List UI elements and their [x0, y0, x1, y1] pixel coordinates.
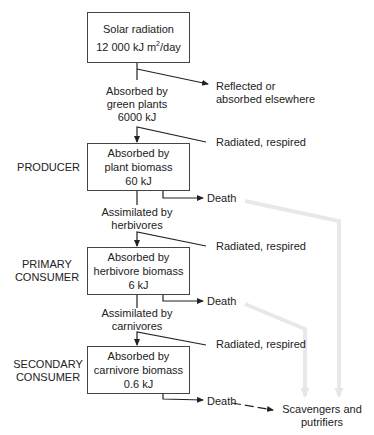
- loss-death-producer: Death: [207, 192, 236, 205]
- solar-value: 12 000 kJ m2/day: [96, 40, 181, 54]
- flow-green-plants: Absorbed by green plants 6000 kJ: [97, 85, 177, 124]
- level-secondary-consumer: SECONDARY CONSUMER: [10, 358, 86, 384]
- secondary-value: 0.6 kJ: [124, 377, 153, 391]
- level-primary-consumer: PRIMARY CONSUMER: [12, 258, 82, 284]
- primary-line1: Absorbed by: [108, 250, 170, 264]
- loss-radiated-producer: Radiated, respired: [216, 136, 306, 149]
- secondary-line2: carnivore biomass: [94, 363, 183, 377]
- producer-line2: plant biomass: [105, 160, 173, 174]
- secondary-consumer-box: Absorbed by carnivore biomass 0.6 kJ: [87, 346, 190, 394]
- loss-radiated-primary: Radiated, respired: [216, 240, 306, 253]
- loss-reflected: Reflected or absorbed elsewhere: [216, 80, 315, 106]
- solar-radiation-box: Solar radiation 12 000 kJ m2/day: [87, 12, 190, 63]
- solar-label: Solar radiation: [103, 22, 174, 36]
- loss-death-secondary: Death: [207, 395, 236, 408]
- primary-consumer-box: Absorbed by herbivore biomass 6 kJ: [87, 247, 190, 295]
- producer-box: Absorbed by plant biomass 60 kJ: [87, 143, 190, 191]
- loss-death-primary: Death: [207, 295, 236, 308]
- loss-radiated-secondary: Radiated, respired: [216, 338, 306, 351]
- primary-line2: herbivore biomass: [94, 264, 184, 278]
- level-producer: PRODUCER: [17, 161, 80, 174]
- producer-line1: Absorbed by: [108, 146, 170, 160]
- gray-flow-arrows: [245, 201, 339, 396]
- primary-value: 6 kJ: [128, 278, 148, 292]
- producer-value: 60 kJ: [125, 174, 151, 188]
- flow-herbivores: Assimilated by herbivores: [92, 206, 182, 232]
- secondary-line1: Absorbed by: [108, 349, 170, 363]
- sink-scavengers-putrifiers: Scavengers and putrifiers: [272, 403, 372, 429]
- flow-carnivores: Assimilated by carnivores: [92, 307, 182, 333]
